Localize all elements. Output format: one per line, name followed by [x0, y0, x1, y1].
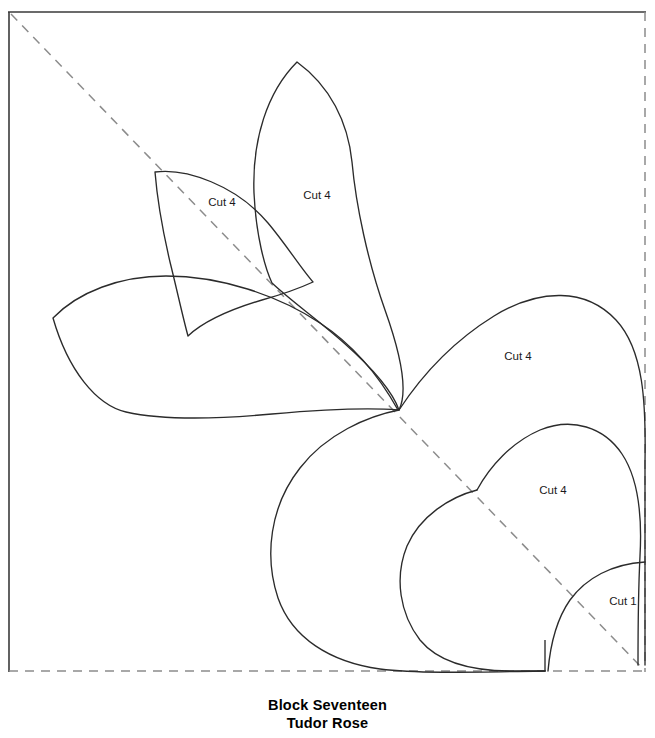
label-cut-large-top-petal: Cut 4 — [303, 189, 331, 201]
label-cut-inner-right-petal: Cut 4 — [539, 484, 567, 496]
pattern-page: Cut 4 Cut 4 Cut 4 Cut 4 Cut 1 Block Seve… — [0, 0, 655, 738]
piece-large-lower-heart-outline — [271, 410, 545, 672]
pattern-drawing-area: Cut 4 Cut 4 Cut 4 Cut 4 Cut 1 — [0, 0, 655, 690]
label-cut-small-leaf: Cut 4 — [208, 196, 236, 208]
piece-corner-arc-outline — [548, 562, 645, 671]
piece-large-top-petal-outline — [254, 62, 403, 410]
diagonal-fold-dashed-line — [11, 14, 644, 670]
pattern-caption: Block Seventeen Tudor Rose — [0, 696, 655, 732]
piece-inner-lower-heart-outline — [400, 490, 545, 671]
label-cut-large-right-petal: Cut 4 — [504, 350, 532, 362]
label-cut-corner-piece: Cut 1 — [609, 595, 637, 607]
piece-large-left-leaf-outline — [53, 276, 398, 418]
piece-inner-right-petal-outline — [477, 424, 641, 665]
caption-pattern-name: Tudor Rose — [0, 714, 655, 732]
caption-block-name: Block Seventeen — [0, 696, 655, 714]
tudor-rose-pattern-svg: Cut 4 Cut 4 Cut 4 Cut 4 Cut 1 — [0, 0, 655, 690]
